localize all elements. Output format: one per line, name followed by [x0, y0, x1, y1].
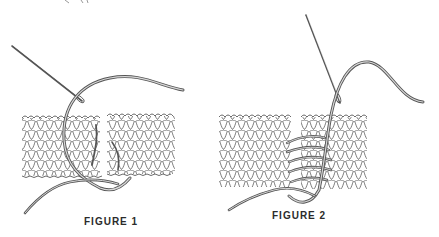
figure-1-illustration	[0, 0, 220, 237]
figure-2-illustration	[219, 0, 439, 237]
needle-icon	[12, 45, 85, 104]
figure-2-caption: FIGURE 2	[272, 210, 326, 221]
figure-1: FIGURE 1	[0, 0, 220, 237]
right-fabric	[107, 116, 175, 174]
left-fabric	[22, 118, 100, 176]
left-fabric	[219, 117, 291, 187]
figure-2: FIGURE 2	[219, 0, 439, 237]
figure-1-caption: FIGURE 1	[84, 216, 138, 227]
